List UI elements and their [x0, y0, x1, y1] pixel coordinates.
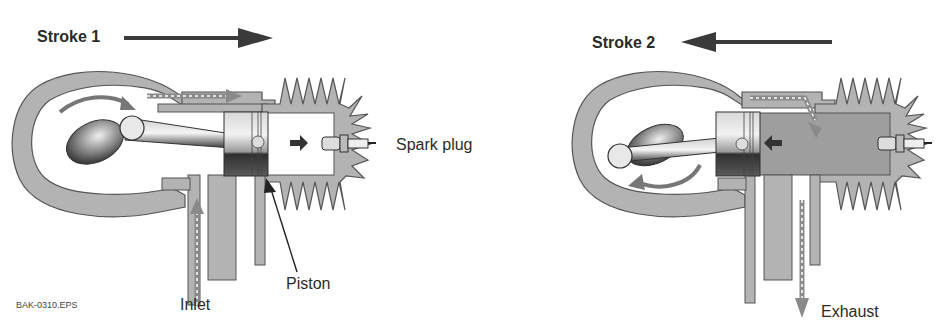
- piston: [224, 112, 268, 176]
- exhaust-flow-arrow-icon: [795, 200, 809, 318]
- crank-web: [59, 111, 130, 173]
- stroke-2-title: Stroke 2: [592, 34, 655, 52]
- stroke-2-direction-arrow-icon: [681, 32, 832, 52]
- exhaust-label: Exhaust: [821, 303, 879, 321]
- piston: [716, 112, 760, 176]
- spark-plug-label: Spark plug: [396, 136, 473, 154]
- file-name-label: BAK-0310.EPS: [16, 300, 78, 310]
- stroke-2-diagram: [572, 32, 932, 318]
- two-stroke-engine-diagram: [0, 0, 947, 336]
- piston-leader-line: [264, 178, 297, 272]
- piston-label: Piston: [286, 275, 330, 293]
- rotation-arrow-icon: [628, 165, 700, 190]
- stroke-1-direction-arrow-icon: [124, 28, 273, 48]
- inlet-label: Inlet: [180, 296, 210, 314]
- stroke-1-diagram: [12, 28, 376, 305]
- rotation-arrow-icon: [60, 96, 136, 112]
- stroke-1-title: Stroke 1: [37, 28, 100, 46]
